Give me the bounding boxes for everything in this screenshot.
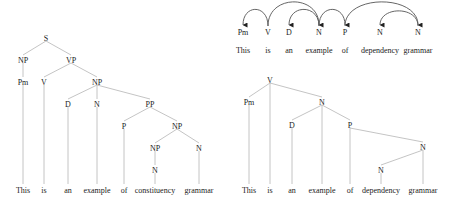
dependency-arcs xyxy=(243,2,418,26)
node-n: N xyxy=(378,166,384,175)
node-p: P xyxy=(122,122,127,131)
node-vp: VP xyxy=(66,56,77,65)
word-example: example xyxy=(305,46,333,55)
dependency-arcs-diagram: Pm V D N P N N This is an example of dep… xyxy=(236,2,433,55)
node-n: N xyxy=(420,143,426,152)
node-pp: PP xyxy=(146,100,155,109)
word-example: example xyxy=(83,186,111,195)
word-an: an xyxy=(288,186,296,195)
node-np: NP xyxy=(18,56,29,65)
node-d: D xyxy=(289,121,295,130)
arc-grammar-dependency xyxy=(380,11,418,26)
node-s: S xyxy=(44,34,48,43)
word-is: is xyxy=(265,46,270,55)
word-example: example xyxy=(308,186,336,195)
node-pm: Pm xyxy=(244,98,255,107)
node-np: NP xyxy=(92,78,103,87)
dependency-tree-nodes: V Pm N D P N N xyxy=(244,76,426,175)
word-dependency: dependency xyxy=(362,186,400,195)
word-an: an xyxy=(64,186,72,195)
word-of: of xyxy=(342,46,349,55)
dependency-tree-words: This is an example of dependency grammar xyxy=(242,186,438,195)
node-np: NP xyxy=(150,144,161,153)
word-of: of xyxy=(347,186,354,195)
word-grammar: grammar xyxy=(409,186,438,195)
dependency-tags: Pm V D N P N N xyxy=(238,28,421,37)
node-n: N xyxy=(94,100,100,109)
dependency-arc-words: This is an example of dependency grammar xyxy=(236,46,433,55)
word-is: is xyxy=(267,186,272,195)
arc-example-of xyxy=(319,9,345,26)
tag-n: N xyxy=(316,28,322,37)
word-this: This xyxy=(16,186,30,195)
node-v: V xyxy=(267,76,273,85)
tag-d: D xyxy=(286,28,292,37)
node-np: NP xyxy=(172,122,183,131)
dependency-tree-edges xyxy=(249,83,423,184)
word-grammar: grammar xyxy=(404,46,433,55)
node-n: N xyxy=(196,144,202,153)
arc-example-an xyxy=(289,9,319,26)
constituency-nodes: S NP VP Pm V NP D N PP P NP NP N N xyxy=(18,34,202,175)
word-this: This xyxy=(236,46,250,55)
arc-is-this xyxy=(243,9,268,26)
word-is: is xyxy=(41,186,46,195)
constituency-tree: S NP VP Pm V NP D N PP P NP NP N N This … xyxy=(16,34,214,195)
node-n: N xyxy=(319,98,325,107)
node-pm: Pm xyxy=(18,78,29,87)
word-of: of xyxy=(121,186,128,195)
constituency-words: This is an example of constituency gramm… xyxy=(16,186,214,195)
tag-pm: Pm xyxy=(238,28,249,37)
node-n: N xyxy=(152,166,158,175)
syntax-diagrams: S NP VP Pm V NP D N PP P NP NP N N This … xyxy=(0,0,452,206)
word-an: an xyxy=(285,46,293,55)
node-d: D xyxy=(65,100,71,109)
word-dependency: dependency xyxy=(361,46,399,55)
tag-p: P xyxy=(343,28,348,37)
tag-v: V xyxy=(265,28,271,37)
arc-of-grammar xyxy=(345,2,418,26)
tag-n: N xyxy=(377,28,383,37)
word-constituency: constituency xyxy=(135,186,175,195)
node-p: P xyxy=(348,121,353,130)
word-grammar: grammar xyxy=(185,186,214,195)
node-v: V xyxy=(41,78,47,87)
word-this: This xyxy=(242,186,256,195)
dependency-tree: V Pm N D P N N This is an example of dep… xyxy=(242,76,438,195)
constituency-edges xyxy=(23,41,199,184)
tag-n: N xyxy=(415,28,421,37)
